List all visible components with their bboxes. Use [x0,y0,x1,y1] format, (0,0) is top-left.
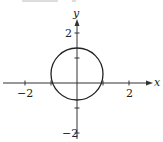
graph: −2 2 x 2 −2 y [0,0,163,142]
x-axis-label: x [154,76,161,89]
x-tick-label-pos2: 2 [126,87,133,100]
y-tick-label-neg2: −2 [62,127,78,140]
x-axis: −2 2 x [3,76,161,100]
cropped-caption [22,0,76,2]
y-axis: 2 −2 y [62,7,80,140]
x-axis-arrow-icon [146,81,153,86]
y-axis-label: y [72,7,80,20]
y-axis-arrow-icon [75,19,80,26]
y-tick-label-pos2: 2 [65,27,72,40]
x-tick-label-neg2: −2 [17,87,33,100]
